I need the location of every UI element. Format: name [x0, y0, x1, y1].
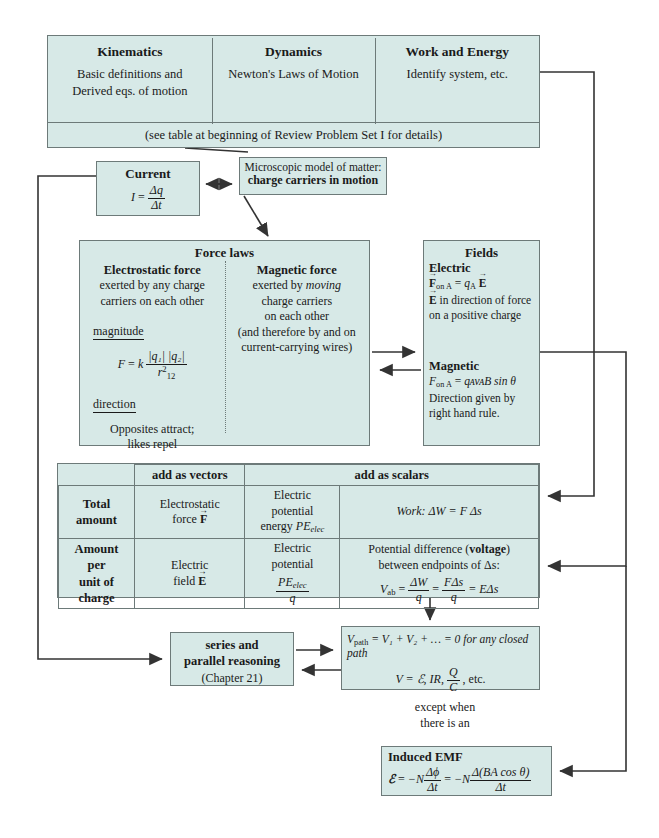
row-label-line2: amount: [62, 512, 131, 528]
except-line1: except when: [390, 700, 500, 716]
fields-electric-line2: E in direction of force: [429, 293, 534, 308]
coulomb-law-equation: F = k |q₁| |q₂| r212: [85, 350, 220, 381]
microscopic-line1: Microscopic model of matter:: [240, 161, 386, 173]
loop-eq1-rest: = V₁ + V₂ + … = 0 for any closed path: [347, 633, 528, 659]
work-equation: Work: ΔW = F Δs: [343, 504, 535, 520]
current-eq-denominator: Δt: [148, 199, 165, 213]
cell-line1: Electric: [248, 488, 336, 504]
fields-magnetic-block: Magnetic Fon A = qᴀvᴀB sin θ Direction g…: [424, 359, 539, 421]
series-line2: parallel reasoning: [171, 654, 293, 670]
table-row-label-total-amount: Total amount: [59, 486, 135, 539]
cell-per-charge-vectors: Electric field E: [135, 539, 245, 609]
cell-per-charge-voltage: Potential difference (voltage) between e…: [340, 539, 539, 609]
magnetic-eq-equals: =: [455, 375, 462, 387]
magnetic-force-panel: Magnetic force exerted by moving charge …: [225, 261, 370, 441]
voltage-line1-post: ): [506, 542, 510, 556]
loop-equation-1: Vpath = V₁ + V₂ + … = 0 for any closed p…: [342, 627, 539, 659]
emf-equals-2: =: [444, 772, 451, 786]
banner-column-title: Work and Energy: [375, 44, 539, 60]
table-header-vectors: add as vectors: [135, 465, 245, 486]
magnetic-line1: exerted by moving: [230, 278, 365, 294]
magnetic-line1-emphasis: moving: [306, 278, 341, 292]
electrostatic-title: Electrostatic force: [85, 263, 220, 278]
direction-line1: Opposites attract;: [85, 422, 220, 438]
magnitude-label: magnitude: [93, 324, 144, 340]
banner-column-line1: Newton's Laws of Motion: [212, 66, 376, 83]
cell-total-scalars-work: Work: ΔW = F Δs: [340, 486, 539, 539]
cell-line2: potential: [248, 557, 336, 573]
electrostatic-force-panel: Electrostatic force exerted by any charg…: [80, 261, 225, 441]
magnetic-line5: current-carrying wires): [230, 340, 365, 356]
banner-column-line2: Derived eqs. of motion: [48, 83, 212, 100]
frac-num-symbol: PE: [278, 575, 293, 589]
voltage-eq-lhs-sub: ab: [387, 588, 395, 598]
cell-line2: field E: [138, 574, 241, 590]
cell-line3-subscript: elec: [310, 525, 324, 535]
cell-total-scalars-energy: Electric potential energy PEelec: [245, 486, 340, 539]
frac-den: q: [276, 592, 309, 606]
banner-column-dynamics: Dynamics Newton's Laws of Motion: [212, 36, 376, 122]
fields-magnetic-equation: Fon A = qᴀvᴀB sin θ: [429, 374, 534, 391]
frac-num-subscript: elec: [293, 580, 307, 590]
electrostatic-line2: carriers on each other: [85, 294, 220, 310]
voltage-f2-num: FΔs: [442, 576, 465, 591]
table-corner-cell: [59, 465, 135, 486]
cell-line1: Electric: [138, 558, 241, 574]
coulomb-numerator: |q₁| |q₂|: [146, 350, 187, 365]
cell-line2-vector: F: [200, 512, 207, 528]
loop-eq2-frac-num: Q: [447, 666, 460, 681]
fields-electric-line3: on a positive charge: [429, 308, 534, 323]
microscopic-line2: charge carriers in motion: [240, 173, 386, 188]
quantity-comparison-table: add as vectors add as scalars Total amou…: [57, 463, 540, 598]
current-eq-numerator: Δq: [148, 184, 165, 199]
banner-footnote: (see table at beginning of Review Proble…: [48, 122, 539, 149]
cell-line2-pre: force: [172, 512, 200, 526]
wire-fields-to-table-row2: [540, 352, 626, 566]
loop-eq1-lhs-sub: path: [354, 638, 368, 647]
table-header-scalars: add as scalars: [245, 465, 539, 486]
banner-column-kinematics: Kinematics Basic definitions and Derived…: [48, 36, 212, 122]
cell-line2-vector: E: [198, 574, 206, 590]
banner-column-line1: Basic definitions and: [48, 66, 212, 83]
magnetic-eq-F-sub: on A: [436, 380, 452, 389]
voltage-f2-den: q: [442, 591, 465, 605]
coulomb-k: k: [138, 358, 143, 372]
emf-equals: =: [398, 772, 405, 786]
loop-eq2-pre: V = ℰ, IR,: [395, 672, 447, 686]
coulomb-equals: =: [128, 358, 135, 372]
potential-per-charge-fraction: PEelec q: [248, 576, 336, 606]
table-header-row: add as vectors add as scalars: [59, 465, 539, 486]
cell-line2-pre: field: [173, 574, 198, 588]
table-row-label-amount-per-charge: Amount per unit of charge: [59, 539, 135, 609]
voltage-f1-num: ΔW: [408, 576, 429, 591]
loop-eq2-frac-den: C: [447, 681, 460, 695]
coulomb-lhs: F: [118, 358, 125, 372]
electric-eq-F-sub: on A: [436, 282, 452, 291]
induced-emf-title: Induced EMF: [382, 747, 551, 765]
row-label-line1: Amount: [62, 541, 131, 557]
cell-line3-symbol: PE: [296, 519, 311, 533]
current-equation: I = Δq Δt: [97, 184, 199, 213]
loop-equation-2: V = ℰ, IR, Q C , etc.: [342, 666, 539, 695]
table-row: Total amount Electrostatic force F Elect…: [59, 486, 539, 539]
emf-f2-num: Δ(BA cos θ): [470, 766, 531, 781]
magnetic-eq-F: F: [429, 375, 436, 387]
fields-box: Fields Electric Fon A = qA E E in direct…: [423, 240, 540, 446]
emf-neg-n-2: −N: [454, 772, 470, 786]
voltage-line1: Potential difference (voltage): [343, 542, 535, 558]
voltage-equation: Vab = ΔW q = FΔs q = EΔs: [343, 576, 535, 605]
fields-electric-equation: Fon A = qA E: [429, 276, 534, 293]
voltage-eq-tail: = EΔs: [468, 582, 498, 596]
emf-f1-num: Δϕ: [424, 766, 441, 781]
emf-f2-den: Δt: [470, 781, 531, 795]
cell-line2: potential: [248, 504, 336, 520]
except-when-label: except when there is an: [390, 700, 500, 731]
banner-column-work-and-energy: Work and Energy Identify system, etc.: [375, 36, 539, 122]
electric-line2-E: E: [429, 293, 437, 308]
current-title: Current: [97, 162, 199, 182]
direction-label: direction: [93, 397, 136, 413]
banner-column-title: Dynamics: [212, 44, 376, 60]
cell-line3-pre: energy: [260, 519, 295, 533]
coulomb-den-subscript: 12: [167, 371, 176, 381]
cell-per-charge-potential: Electric potential PEelec q: [245, 539, 340, 609]
